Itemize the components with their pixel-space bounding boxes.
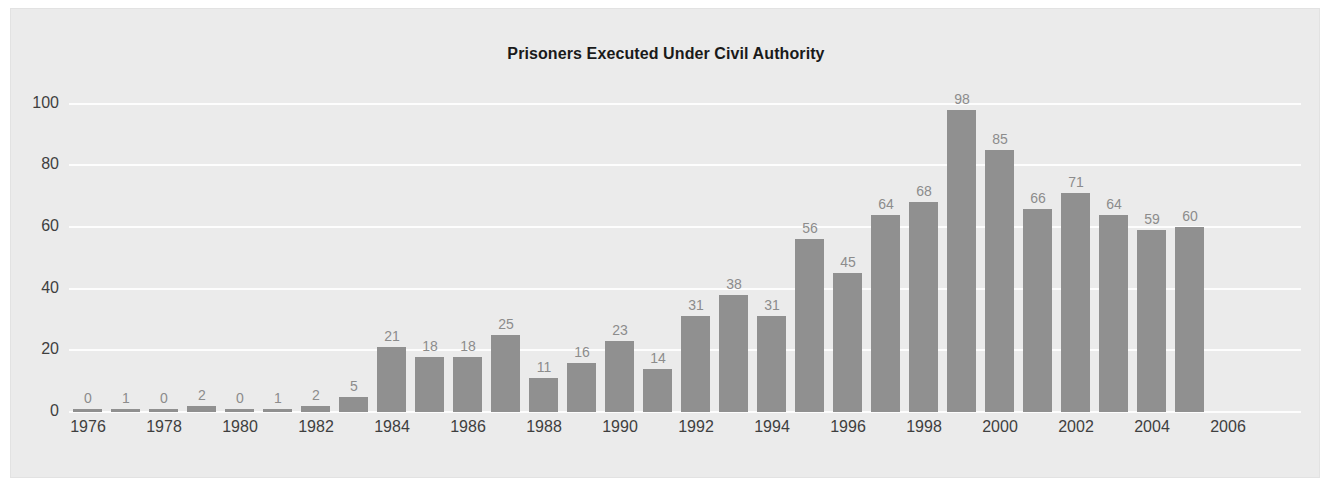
bar[interactable] bbox=[947, 110, 976, 412]
bar-slot: 85 bbox=[981, 79, 1019, 412]
bar[interactable] bbox=[909, 202, 938, 412]
bar-slot: 60 bbox=[1171, 79, 1209, 412]
bar-value-label: 25 bbox=[487, 316, 525, 332]
bar[interactable] bbox=[491, 335, 520, 412]
bar-value-label: 1 bbox=[259, 390, 297, 406]
bar-slot: 56 bbox=[791, 79, 829, 412]
bar-value-label: 2 bbox=[183, 387, 221, 403]
x-axis-tick-label: 1992 bbox=[656, 418, 736, 436]
bar-slot: 59 bbox=[1133, 79, 1171, 412]
bar-value-label: 68 bbox=[905, 183, 943, 199]
bar[interactable] bbox=[339, 397, 368, 412]
bar[interactable] bbox=[225, 409, 254, 412]
bar[interactable] bbox=[149, 409, 178, 412]
y-axis-tick-label: 80 bbox=[13, 155, 59, 173]
bar-slot: 66 bbox=[1019, 79, 1057, 412]
bar-slot: 45 bbox=[829, 79, 867, 412]
bar-slot: 2 bbox=[297, 79, 335, 412]
bar-slot: 68 bbox=[905, 79, 943, 412]
bar[interactable] bbox=[681, 316, 710, 412]
bar[interactable] bbox=[263, 409, 292, 412]
x-axis-tick-label: 2004 bbox=[1112, 418, 1192, 436]
bar-slot: 31 bbox=[753, 79, 791, 412]
bar-slot: 0 bbox=[145, 79, 183, 412]
x-axis-tick-label: 1988 bbox=[504, 418, 584, 436]
chart-title: Prisoners Executed Under Civil Authority bbox=[11, 45, 1321, 63]
bar[interactable] bbox=[377, 347, 406, 412]
bar-value-label: 56 bbox=[791, 220, 829, 236]
bar[interactable] bbox=[795, 239, 824, 412]
bar[interactable] bbox=[719, 295, 748, 412]
bar-value-label: 59 bbox=[1133, 211, 1171, 227]
bar-value-label: 66 bbox=[1019, 190, 1057, 206]
bar[interactable] bbox=[415, 357, 444, 413]
bar[interactable] bbox=[567, 363, 596, 412]
bar-value-label: 0 bbox=[69, 390, 107, 406]
bar[interactable] bbox=[73, 409, 102, 412]
x-axis-tick-label: 1990 bbox=[580, 418, 660, 436]
bar-value-label: 0 bbox=[145, 390, 183, 406]
bar-value-label: 21 bbox=[373, 328, 411, 344]
bar[interactable] bbox=[111, 409, 140, 412]
x-axis-tick-label: 1982 bbox=[276, 418, 356, 436]
bar[interactable] bbox=[1061, 193, 1090, 412]
bar[interactable] bbox=[1023, 209, 1052, 413]
bar[interactable] bbox=[643, 369, 672, 412]
bar[interactable] bbox=[605, 341, 634, 412]
bar-slot: 25 bbox=[487, 79, 525, 412]
bar-value-label: 11 bbox=[525, 359, 563, 375]
bar[interactable] bbox=[453, 357, 482, 413]
x-axis-tick-label: 1984 bbox=[352, 418, 432, 436]
bar-slot: 18 bbox=[411, 79, 449, 412]
bar[interactable] bbox=[529, 378, 558, 412]
bar-slot: 23 bbox=[601, 79, 639, 412]
bar-value-label: 0 bbox=[221, 390, 259, 406]
bar[interactable] bbox=[1175, 227, 1204, 412]
bar-slot: 64 bbox=[867, 79, 905, 412]
bar-value-label: 2 bbox=[297, 387, 335, 403]
bar[interactable] bbox=[871, 215, 900, 412]
x-axis-tick-label: 1996 bbox=[808, 418, 888, 436]
bar-slot: 1 bbox=[259, 79, 297, 412]
bar-slot: 0 bbox=[221, 79, 259, 412]
bar-value-label: 5 bbox=[335, 378, 373, 394]
y-axis-tick-label: 100 bbox=[13, 94, 59, 112]
bar-value-label: 1 bbox=[107, 390, 145, 406]
bar[interactable] bbox=[301, 406, 330, 412]
y-axis-tick-label: 20 bbox=[13, 340, 59, 358]
bar-value-label: 98 bbox=[943, 91, 981, 107]
bar[interactable] bbox=[1137, 230, 1166, 412]
bar-value-label: 85 bbox=[981, 131, 1019, 147]
bar-value-label: 71 bbox=[1057, 174, 1095, 190]
x-axis-tick-label: 1998 bbox=[884, 418, 964, 436]
bar[interactable] bbox=[833, 273, 862, 412]
bar[interactable] bbox=[757, 316, 786, 412]
figure: Prisoners Executed Under Civil Authority… bbox=[0, 0, 1332, 499]
x-axis-tick-label: 2006 bbox=[1188, 418, 1268, 436]
chart-panel: Prisoners Executed Under Civil Authority… bbox=[10, 8, 1320, 478]
bar-slot: 31 bbox=[677, 79, 715, 412]
bar-series: 0102012521181825111623143138315645646898… bbox=[69, 79, 1301, 412]
bar-slot: 16 bbox=[563, 79, 601, 412]
y-axis-tick-label: 60 bbox=[13, 217, 59, 235]
x-axis-tick-label: 1980 bbox=[200, 418, 280, 436]
bar-slot: 1 bbox=[107, 79, 145, 412]
bar-value-label: 18 bbox=[411, 338, 449, 354]
x-axis-tick-label: 1994 bbox=[732, 418, 812, 436]
bar-slot: 71 bbox=[1057, 79, 1095, 412]
bar-value-label: 14 bbox=[639, 350, 677, 366]
plot-area: 0102012521181825111623143138315645646898… bbox=[69, 79, 1301, 412]
bar[interactable] bbox=[1099, 215, 1128, 412]
bar[interactable] bbox=[187, 406, 216, 412]
bar-slot: 98 bbox=[943, 79, 981, 412]
bar-slot: 21 bbox=[373, 79, 411, 412]
bar-value-label: 16 bbox=[563, 344, 601, 360]
x-axis-tick-label: 2000 bbox=[960, 418, 1040, 436]
bar-value-label: 18 bbox=[449, 338, 487, 354]
x-axis-tick-label: 2002 bbox=[1036, 418, 1116, 436]
bar-slot: 64 bbox=[1095, 79, 1133, 412]
bar[interactable] bbox=[985, 150, 1014, 412]
bar-value-label: 64 bbox=[1095, 196, 1133, 212]
bar-slot: 18 bbox=[449, 79, 487, 412]
bar-slot: 2 bbox=[183, 79, 221, 412]
